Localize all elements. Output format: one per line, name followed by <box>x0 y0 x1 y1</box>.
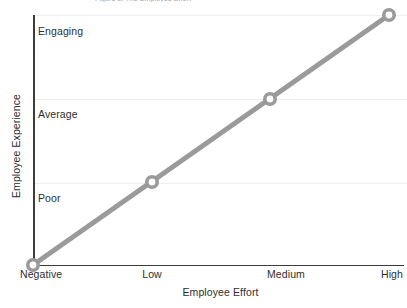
y-tick-label-poor: Poor <box>38 192 61 204</box>
gridline-poor <box>33 183 407 184</box>
chart-container: Figure 2. The Employee Effort Employee E… <box>0 0 407 308</box>
gridline-engaging <box>33 15 407 16</box>
y-tick-label-engaging: Engaging <box>38 25 83 37</box>
plot-area: Engaging Average Poor <box>33 15 407 265</box>
y-axis-title: Employee Experience <box>10 86 22 206</box>
gridline-average <box>33 99 407 100</box>
x-tick-label-medium: Medium <box>267 268 305 280</box>
y-axis-line <box>33 15 35 266</box>
x-tick-label-negative: Negative <box>20 268 62 280</box>
y-tick-label-average: Average <box>38 108 78 120</box>
x-axis-line <box>33 265 404 266</box>
x-tick-label-high: High <box>381 268 403 280</box>
x-axis-title: Employee Effort <box>33 286 407 298</box>
x-tick-label-low: Low <box>142 268 162 280</box>
figure-caption: Figure 2. The Employee Effort <box>95 0 295 2</box>
